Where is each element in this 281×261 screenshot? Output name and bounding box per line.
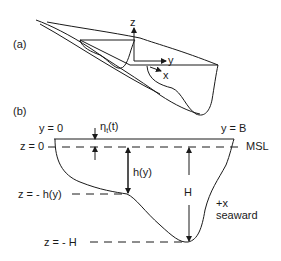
eta-label: ηt(t): [100, 120, 118, 134]
seaward-label: seaward: [216, 209, 258, 221]
channel-perspective-outline: [36, 20, 218, 115]
panel-b-label: (b): [13, 105, 26, 117]
y-B-label: y = B: [221, 122, 246, 134]
channel-bed-profile: [55, 139, 234, 242]
panel-a: (a) z y x: [13, 16, 218, 115]
h-label: h(y): [133, 166, 152, 178]
msl-label: MSL: [246, 140, 269, 152]
diagram-canvas: (a) z y x (b) y = 0 y = B: [0, 0, 281, 261]
plus-x-label: +x: [216, 197, 228, 209]
panel-a-label: (a): [13, 38, 26, 50]
axes-3d: z y x: [130, 16, 174, 81]
H-label: H: [184, 186, 192, 198]
y-zero-label: y = 0: [39, 122, 63, 134]
x-axis: [150, 67, 161, 71]
x-axis-label: x: [163, 69, 169, 81]
y-axis-label: y: [168, 54, 174, 66]
z-axis-label: z: [130, 16, 136, 28]
z-minus-h-label: z = - h(y): [18, 188, 62, 200]
z-zero-label: z = 0: [20, 140, 44, 152]
panel-b: (b) y = 0 y = B ηt(t) z = 0 MSL h(y) z =…: [13, 105, 269, 248]
z-minus-H-label: z = - H: [44, 236, 77, 248]
